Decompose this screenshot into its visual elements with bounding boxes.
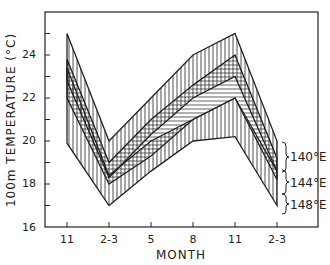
y-tick-16: 16 xyxy=(22,221,36,234)
x-tick-2-3a: 2-3 xyxy=(100,233,118,246)
x-tick-11a: 11 xyxy=(60,233,74,246)
x-axis-title: MONTH xyxy=(156,248,206,262)
x-tick-2-3b: 2-3 xyxy=(268,233,286,246)
y-tick-20: 20 xyxy=(22,134,36,147)
y-axis-title: 100m TEMPERATURE (°C) xyxy=(4,33,18,207)
legend-148E: 148°E xyxy=(290,198,327,212)
bracket-144 xyxy=(282,170,289,194)
bands xyxy=(67,34,277,206)
y-tick-22: 22 xyxy=(22,91,36,104)
y-tick-24: 24 xyxy=(22,48,36,61)
x-tick-8: 8 xyxy=(190,233,197,246)
legend-140E: 140°E xyxy=(290,150,327,164)
temperature-chart: 24 22 20 18 16 11 2-3 5 8 11 2-3 MONTH 1… xyxy=(0,0,330,265)
y-tick-18: 18 xyxy=(22,177,36,190)
legend-144E: 144°E xyxy=(290,176,327,190)
x-tick-5: 5 xyxy=(148,233,155,246)
x-tick-11b: 11 xyxy=(228,233,242,246)
bracket-148 xyxy=(282,194,289,214)
bracket-140 xyxy=(282,142,289,172)
